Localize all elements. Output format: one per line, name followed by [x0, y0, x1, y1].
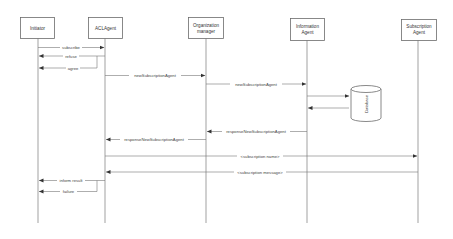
participant-label: Organization — [193, 23, 219, 28]
message-failure: failure — [39, 189, 97, 194]
message-new-subscription-agent-2: newSubscriptionAgent — [206, 82, 306, 87]
participant-label: Agent — [301, 30, 314, 35]
message-label: inform result — [59, 178, 83, 183]
message-label: <subscription name> — [241, 154, 280, 159]
participant-aclagent: ACLAgent — [89, 18, 123, 39]
participant-information-agent: Information Agent — [291, 19, 325, 41]
participant-label: manager — [197, 29, 216, 34]
message-subscribe: subscribe — [38, 45, 104, 50]
participant-initiator: Initiator — [21, 18, 55, 39]
message-refuse: refuse — [39, 54, 105, 59]
database-cylinder: Database — [351, 86, 381, 122]
message-subscription-name: <subscription name> — [105, 154, 417, 159]
message-label: refuse — [65, 54, 77, 59]
participant-label: Agent — [413, 30, 426, 35]
message-label: subscribe — [62, 45, 81, 50]
message-agree: agree — [39, 66, 97, 71]
participant-label: ACLAgent — [95, 26, 117, 31]
message-label: newSubscriptionAgent — [235, 82, 278, 87]
message-subscription-message: <subscription message> — [106, 170, 418, 175]
message-response-new-subscription-agent-2: responseNewSubscriptionAgent — [106, 137, 206, 142]
participant-label: Subscription — [406, 24, 432, 29]
message-label: responseNewSubscriptionAgent — [226, 129, 286, 134]
participant-label: Information — [296, 24, 319, 29]
message-label: responseNewSubscriptionAgent — [124, 137, 184, 142]
message-inform-result: inform result — [39, 178, 105, 183]
sequence-diagram: Initiator ACLAgent Organization manager … — [0, 0, 453, 239]
message-label: <subscription message> — [237, 170, 283, 175]
message-label: newSubscriptionAgent — [134, 73, 177, 78]
database-label: Database — [364, 94, 369, 113]
message-label: agree — [68, 66, 79, 71]
participant-label: Initiator — [30, 26, 46, 31]
participant-subscription-agent: Subscription Agent — [402, 20, 437, 41]
message-response-new-subscription-agent-1: responseNewSubscriptionAgent — [207, 129, 307, 134]
message-new-subscription-agent-1: newSubscriptionAgent — [105, 73, 205, 78]
participant-organization-manager: Organization manager — [189, 18, 224, 39]
message-label: failure — [63, 189, 75, 194]
